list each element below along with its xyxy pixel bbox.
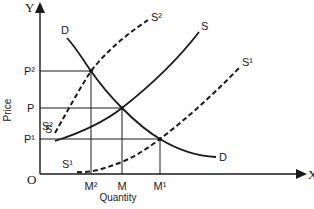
supply-s1-label-start: S¹ bbox=[62, 158, 73, 170]
x-axis-title: Quantity bbox=[99, 192, 136, 203]
supply-demand-diagram: Y X O Price Quantity P² P P¹ M² M M¹ D D… bbox=[0, 0, 314, 209]
demand-label-start: D bbox=[61, 24, 69, 36]
price-label-p: P bbox=[27, 102, 34, 114]
supply-curve-s2 bbox=[55, 20, 148, 133]
supply-s2-label-start: S² bbox=[42, 120, 53, 132]
x-axis-arrow-icon bbox=[296, 169, 307, 179]
supply-s-label-end: S bbox=[201, 20, 208, 32]
y-axis-title: Price bbox=[2, 98, 13, 121]
price-label-p1: P¹ bbox=[24, 133, 35, 145]
price-label-p2: P² bbox=[24, 65, 35, 77]
y-axis-arrow-icon bbox=[35, 2, 45, 13]
quantity-label-m2: M² bbox=[85, 180, 98, 192]
equilibrium-point-p bbox=[120, 106, 123, 109]
origin-label: O bbox=[27, 172, 36, 187]
quantity-label-m1: M¹ bbox=[154, 180, 167, 192]
quantity-label-m: M bbox=[117, 180, 126, 192]
x-axis-letter: X bbox=[308, 167, 314, 182]
supply-s1-label-end: S¹ bbox=[242, 56, 253, 68]
demand-label-end: D bbox=[219, 151, 227, 163]
supply-s2-label-end: S² bbox=[151, 11, 162, 23]
y-axis-letter: Y bbox=[25, 0, 35, 15]
equilibrium-point-p2 bbox=[89, 69, 93, 73]
axes bbox=[40, 10, 298, 174]
equilibrium-point-p1 bbox=[158, 137, 162, 141]
